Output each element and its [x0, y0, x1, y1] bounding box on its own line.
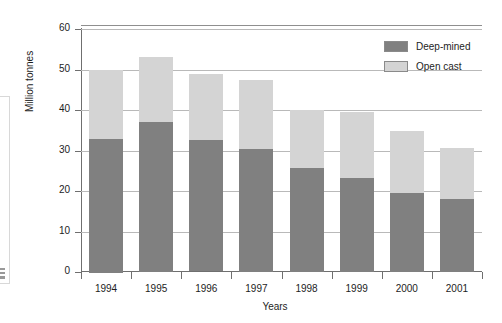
bar-segment-open-cast	[390, 131, 424, 193]
bar-segment-open-cast	[139, 57, 173, 122]
bar-segment-deep-mined	[290, 168, 324, 272]
legend-item-open-cast: Open cast	[384, 56, 470, 76]
y-axis-tick	[75, 29, 81, 30]
bar-segment-deep-mined	[390, 193, 424, 272]
chart-screenshot: 0102030405060 19941995199619971998199920…	[0, 0, 502, 323]
chart-legend: Deep-mined Open cast	[384, 36, 470, 76]
y-axis-tick	[75, 151, 81, 152]
bar-segment-open-cast	[239, 80, 273, 149]
x-axis-title-text: Years	[262, 301, 287, 312]
x-axis-tick-label: 2000	[382, 283, 432, 294]
legend-swatch-deep-mined	[384, 41, 408, 52]
y-axis-tick-label: 50	[30, 63, 70, 74]
bar-segment-deep-mined	[89, 139, 123, 273]
bar-segment-open-cast	[290, 110, 324, 168]
bar-1995	[139, 57, 173, 272]
y-axis-tick-label: 10	[30, 225, 70, 236]
bar-segment-open-cast	[440, 148, 474, 199]
legend-label-open-cast: Open cast	[416, 61, 462, 72]
x-axis-tick	[382, 272, 383, 279]
legend-swatch-open-cast	[384, 61, 408, 72]
x-axis-tick	[482, 272, 483, 279]
x-axis-tick-label: 1999	[332, 283, 382, 294]
bar-segment-deep-mined	[440, 199, 474, 272]
bar-1997	[239, 80, 273, 272]
x-axis-tick-label: 1995	[131, 283, 181, 294]
x-axis-tick	[432, 272, 433, 279]
x-axis-tick	[81, 272, 82, 279]
y-axis-tick	[75, 191, 81, 192]
y-axis-tick-label: 60	[30, 22, 70, 33]
y-axis-tick	[75, 232, 81, 233]
gridline	[81, 29, 482, 30]
y-axis-tick-label: 20	[30, 184, 70, 195]
x-axis-tick-label: 1994	[81, 283, 131, 294]
legend-label-deep-mined: Deep-mined	[416, 41, 470, 52]
bar-segment-deep-mined	[189, 140, 223, 271]
bar-2001	[440, 148, 474, 272]
bar-segment-deep-mined	[340, 178, 374, 272]
bar-1994	[89, 70, 123, 273]
legend-item-deep-mined: Deep-mined	[384, 36, 470, 56]
y-axis-title: Million tonnes	[24, 51, 35, 112]
x-axis-tick	[231, 272, 232, 279]
x-axis-tick-label: 2001	[432, 283, 482, 294]
x-axis-tick	[282, 272, 283, 279]
y-axis-tick-label: 30	[30, 144, 70, 155]
y-axis-tick	[75, 110, 81, 111]
bar-1998	[290, 110, 324, 272]
clipped-left-marker	[0, 268, 5, 279]
plot-top-rule	[81, 25, 482, 26]
bar-1999	[340, 112, 374, 272]
x-axis-tick	[131, 272, 132, 279]
x-axis-title: Years	[0, 301, 502, 312]
bar-segment-deep-mined	[139, 122, 173, 272]
clipped-left-panel	[0, 96, 10, 284]
x-axis-tick-label: 1998	[282, 283, 332, 294]
y-axis-tick-label: 40	[30, 103, 70, 114]
bar-1996	[189, 74, 223, 272]
y-axis-tick	[75, 70, 81, 71]
x-axis-tick-label: 1996	[181, 283, 231, 294]
bar-segment-deep-mined	[239, 149, 273, 272]
bar-2000	[390, 131, 424, 272]
y-axis-tick-label: 0	[30, 265, 70, 276]
x-axis-tick	[181, 272, 182, 279]
x-axis-tick	[332, 272, 333, 279]
bar-segment-open-cast	[340, 112, 374, 178]
bar-segment-open-cast	[89, 70, 123, 139]
x-axis-tick-label: 1997	[231, 283, 281, 294]
bar-segment-open-cast	[189, 74, 223, 140]
